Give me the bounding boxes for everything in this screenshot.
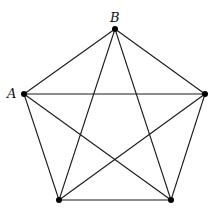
vertex-label-a: A bbox=[6, 86, 16, 101]
edge-r-br bbox=[171, 94, 205, 200]
labels-group: B A bbox=[6, 10, 120, 101]
graph-diagram: B A bbox=[0, 0, 219, 215]
edge-b-bl bbox=[59, 29, 115, 200]
vertices-group bbox=[21, 26, 208, 203]
vertex-b bbox=[112, 26, 118, 32]
vertex-r bbox=[202, 91, 208, 97]
edge-b-r bbox=[115, 29, 205, 94]
vertex-a bbox=[21, 91, 27, 97]
vertex-label-b: B bbox=[109, 10, 120, 25]
edges-group bbox=[24, 29, 205, 200]
edge-a-br bbox=[24, 94, 171, 200]
vertex-bl bbox=[56, 197, 62, 203]
edge-b-a bbox=[24, 29, 115, 94]
edge-b-br bbox=[115, 29, 171, 200]
vertex-br bbox=[168, 197, 174, 203]
edge-r-bl bbox=[59, 94, 205, 200]
edge-a-bl bbox=[24, 94, 59, 200]
